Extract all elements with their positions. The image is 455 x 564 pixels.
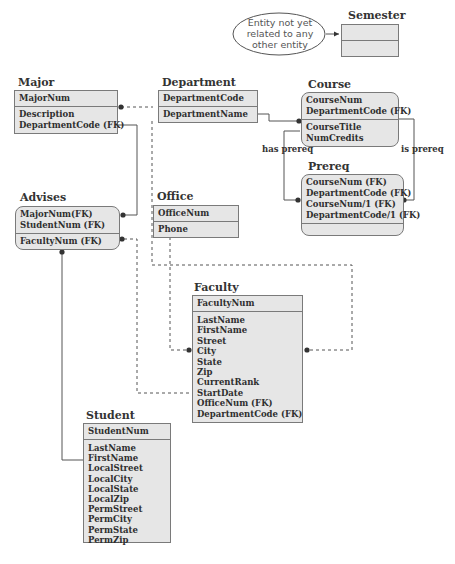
entity-prereq[interactable]: CourseNum (FK)DepartmentCode (FK)CourseN… xyxy=(301,174,404,236)
semester-attr-section xyxy=(342,41,398,56)
semester-key-section xyxy=(342,25,398,41)
attribute: Zip xyxy=(197,367,298,377)
entity-major[interactable]: MajorNum DescriptionDepartmentCode (FK) xyxy=(14,90,118,134)
key-attribute: DepartmentCode/1 (FK) xyxy=(306,210,399,221)
entity-title-advises: Advises xyxy=(20,191,66,204)
entity-title-faculty: Faculty xyxy=(194,281,239,294)
note-line: other entity xyxy=(236,39,324,50)
attribute: LastName xyxy=(197,315,298,325)
label-is-prereq: is prereq xyxy=(401,144,444,154)
attribute: FirstName xyxy=(88,453,166,463)
attribute: City xyxy=(197,346,298,356)
entity-office[interactable]: OfficeNum Phone xyxy=(153,205,239,238)
entity-title-major: Major xyxy=(18,76,54,89)
key-attribute: OfficeNum xyxy=(158,208,234,219)
entity-faculty[interactable]: FacultyNum LastName FirstName Street Cit… xyxy=(192,295,303,423)
attribute: StartDate xyxy=(197,388,298,398)
entity-title-department: Department xyxy=(162,76,236,89)
attribute: PermState xyxy=(88,525,166,535)
entity-semester[interactable] xyxy=(341,24,399,57)
attribute: PermZip xyxy=(88,535,166,545)
annotation-note: Entity not yet related to any other enti… xyxy=(236,17,324,50)
entity-advises[interactable]: MajorNum(FK)StudentNum (FK) FacultyNum (… xyxy=(15,206,120,250)
attribute: FacultyNum (FK) xyxy=(20,236,115,247)
key-attribute: DepartmentCode (FK) xyxy=(306,188,399,199)
attribute: DepartmentCode (FK) xyxy=(197,409,298,419)
attribute: State xyxy=(197,357,298,367)
key-attribute: FacultyNum xyxy=(197,298,298,309)
key-attribute: DepartmentCode (FK) xyxy=(306,106,394,117)
attribute: Street xyxy=(197,336,298,346)
entity-title-student: Student xyxy=(86,409,135,422)
key-attribute: StudentNum xyxy=(88,426,166,437)
attribute: PermStreet xyxy=(88,504,166,514)
entity-course[interactable]: CourseNumDepartmentCode (FK) CourseTitle… xyxy=(301,92,399,147)
attribute: LocalCity xyxy=(88,474,166,484)
attribute: LocalStreet xyxy=(88,463,166,473)
key-attribute: MajorNum xyxy=(19,93,113,104)
attribute: LastName xyxy=(88,443,166,453)
note-line: Entity not yet xyxy=(236,17,324,28)
entity-title-semester: Semester xyxy=(348,9,406,22)
key-attribute: StudentNum (FK) xyxy=(20,220,115,231)
entity-title-prereq: Prereq xyxy=(308,160,350,173)
key-attribute: CourseNum xyxy=(306,95,394,106)
attribute: FirstName xyxy=(197,325,298,335)
attribute: DepartmentName xyxy=(163,109,253,120)
entity-title-office: Office xyxy=(157,190,194,203)
note-line: related to any xyxy=(236,28,324,39)
key-attribute: MajorNum(FK) xyxy=(20,209,115,220)
attribute: OfficeNum (FK) xyxy=(197,398,298,408)
entity-student[interactable]: StudentNum LastName FirstName LocalStree… xyxy=(83,423,171,543)
attribute: NumCredits xyxy=(306,133,394,144)
attribute: CurrentRank xyxy=(197,377,298,387)
entity-department[interactable]: DepartmentCode DepartmentName xyxy=(158,90,258,123)
label-has-prereq: has prereq xyxy=(262,144,313,154)
attribute: PermCity xyxy=(88,514,166,524)
entity-title-course: Course xyxy=(308,78,351,91)
attribute: Phone xyxy=(158,224,234,235)
attribute: LocalZip xyxy=(88,494,166,504)
attribute: Description xyxy=(19,109,113,120)
attribute: CourseTitle xyxy=(306,122,394,133)
attribute: LocalState xyxy=(88,484,166,494)
attribute: DepartmentCode (FK) xyxy=(19,120,113,131)
key-attribute: DepartmentCode xyxy=(163,93,253,104)
prereq-attr-section xyxy=(302,224,403,228)
key-attribute: CourseNum (FK) xyxy=(306,177,399,188)
key-attribute: CourseNum/1 (FK) xyxy=(306,199,399,210)
